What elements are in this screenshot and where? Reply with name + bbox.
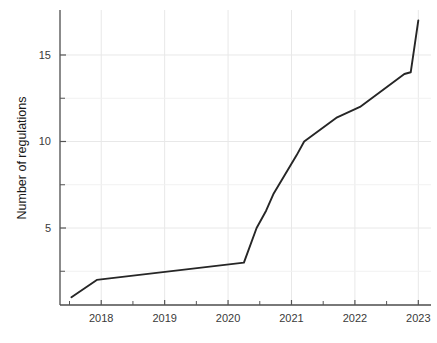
y-tick-label: 10 [39,135,51,147]
x-axis-tick-labels: 201820192020202120222023 [89,312,431,324]
x-tick-label: 2022 [343,312,367,324]
y-tick-label: 15 [39,49,51,61]
y-tick-label: 5 [45,222,51,234]
chart-figure: 201820192020202120222023 51015 Number of… [0,0,437,343]
line-chart-svg: 201820192020202120222023 51015 Number of… [0,0,437,343]
y-axis-tick-labels: 51015 [39,49,51,234]
x-tick-label: 2019 [152,312,176,324]
x-tick-label: 2020 [216,312,240,324]
x-tick-label: 2023 [406,312,430,324]
x-tick-label: 2021 [279,312,303,324]
y-axis-title: Number of regulations [15,97,29,220]
x-tick-label: 2018 [89,312,113,324]
